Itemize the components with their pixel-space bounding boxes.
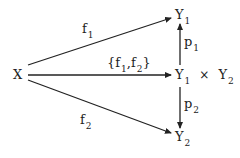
label-p2: p2 [184,97,199,110]
product-diagram: X Y1 Y1×Y2 Y2 f1 {f1,f2} f2 p1 p2 [0,0,240,158]
label-f2: f2 [80,113,92,126]
label-p1: p1 [184,35,199,48]
arrow-f2 [28,80,171,133]
times-operator: × [199,68,209,82]
node-y1-times-y2: Y1×Y2 [175,68,234,81]
label-f1-f2-pair: {f1,f2} [107,56,151,69]
node-y1: Y1 [175,8,190,21]
node-y2: Y2 [175,130,190,143]
node-x: X [13,68,22,81]
label-f1: f1 [82,22,94,35]
